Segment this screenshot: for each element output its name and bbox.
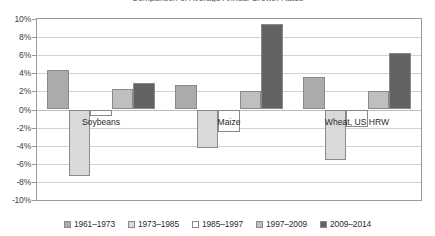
bar <box>197 110 219 149</box>
bar <box>368 91 390 109</box>
gridline <box>37 91 421 92</box>
y-axis-tick-label: 4% <box>0 68 31 78</box>
gridline <box>37 73 421 74</box>
y-axis-tick-label: 6% <box>0 50 31 60</box>
legend-label: 1985–1997 <box>202 219 243 229</box>
bar <box>112 89 134 110</box>
group-label: Maize <box>218 117 241 127</box>
legend-label: 2009–2014 <box>330 219 371 229</box>
chart-title: Comparison of Average Annual Growth Rate… <box>0 0 435 2</box>
group-label: Wheat, US HRW <box>325 117 389 127</box>
y-axis-tick-label: 10% <box>0 14 31 24</box>
bar <box>261 24 283 109</box>
gridline <box>37 164 421 165</box>
bar <box>90 110 112 116</box>
legend-swatch-icon <box>128 221 135 228</box>
bar <box>303 77 325 110</box>
y-axis-tick-label: 0% <box>0 105 31 115</box>
bar <box>389 53 411 109</box>
y-axis-tick-label: -6% <box>0 159 31 169</box>
legend-swatch-icon <box>192 221 199 228</box>
y-axis-tick-label: -2% <box>0 123 31 133</box>
y-axis-tick-label: -8% <box>0 177 31 187</box>
bar <box>240 91 262 109</box>
legend-label: 1961–1973 <box>74 219 115 229</box>
gridline <box>37 37 421 38</box>
y-axis-tick-label: 2% <box>0 86 31 96</box>
y-axis-tick-label: -10% <box>0 195 31 205</box>
legend-item[interactable]: 1997–2009 <box>256 219 307 229</box>
legend-swatch-icon <box>320 221 327 228</box>
y-axis-tick-label: 8% <box>0 32 31 42</box>
legend-item[interactable]: 2009–2014 <box>320 219 371 229</box>
legend-item[interactable]: 1961–1973 <box>64 219 115 229</box>
legend-label: 1973–1985 <box>138 219 179 229</box>
legend-label: 1997–2009 <box>266 219 307 229</box>
plot-inner: SoybeansMaizeWheat, US HRW <box>37 19 421 200</box>
bar <box>133 83 155 109</box>
chart-legend: 1961–19731973–19851985–19971997–20092009… <box>0 219 435 229</box>
gridline <box>37 55 421 56</box>
legend-item[interactable]: 1985–1997 <box>192 219 243 229</box>
gridline <box>37 146 421 147</box>
bar <box>47 70 69 110</box>
legend-item[interactable]: 1973–1985 <box>128 219 179 229</box>
legend-swatch-icon <box>256 221 263 228</box>
bar <box>175 85 197 109</box>
y-axis-tick-label: -4% <box>0 141 31 151</box>
plot-area: SoybeansMaizeWheat, US HRW <box>36 18 422 201</box>
legend-swatch-icon <box>64 221 71 228</box>
group-label: Soybeans <box>82 117 120 127</box>
gridline <box>37 182 421 183</box>
chart-container: Comparison of Average Annual Growth Rate… <box>0 0 435 236</box>
